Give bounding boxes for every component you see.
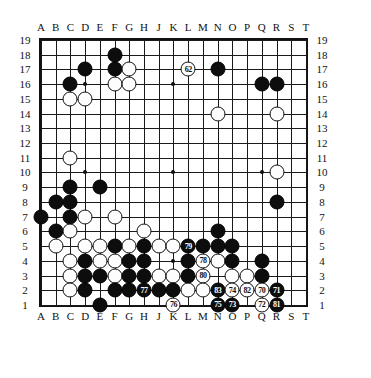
stone[interactable]	[63, 150, 78, 165]
stone-numbered[interactable]: 71	[269, 283, 284, 298]
stone[interactable]	[166, 283, 181, 298]
stone[interactable]	[63, 194, 78, 209]
stone[interactable]	[210, 253, 225, 268]
stone[interactable]	[107, 62, 122, 77]
column-label-bottom: J	[152, 311, 166, 322]
stone[interactable]	[63, 180, 78, 195]
stone[interactable]	[269, 77, 284, 92]
stone[interactable]	[137, 224, 152, 239]
stone[interactable]	[107, 77, 122, 92]
column-label-bottom: P	[240, 311, 254, 322]
column-label-top: B	[49, 22, 63, 33]
row-label-left: 1	[17, 300, 33, 311]
stone-numbered[interactable]: 62	[181, 62, 196, 77]
stone[interactable]	[107, 47, 122, 62]
row-label-right: 11	[314, 153, 330, 164]
stone[interactable]	[63, 209, 78, 224]
stone-numbered[interactable]: 74	[225, 283, 240, 298]
stone[interactable]	[107, 268, 122, 283]
stone[interactable]	[78, 283, 93, 298]
stone[interactable]	[137, 253, 152, 268]
stone-move-number: 81	[270, 298, 283, 311]
stone[interactable]	[107, 239, 122, 254]
stone[interactable]	[210, 224, 225, 239]
stone[interactable]	[63, 224, 78, 239]
stone[interactable]	[269, 165, 284, 180]
stone-numbered[interactable]: 72	[254, 297, 269, 312]
stone[interactable]	[195, 239, 210, 254]
stone[interactable]	[92, 297, 107, 312]
stone[interactable]	[254, 77, 269, 92]
stone-numbered[interactable]: 70	[254, 283, 269, 298]
stone[interactable]	[210, 62, 225, 77]
stone-numbered[interactable]: 82	[240, 283, 255, 298]
stone-numbered[interactable]: 79	[181, 239, 196, 254]
stone[interactable]	[48, 239, 63, 254]
stone[interactable]	[48, 194, 63, 209]
stone[interactable]	[63, 91, 78, 106]
stone[interactable]	[122, 239, 137, 254]
row-label-left: 7	[17, 212, 33, 223]
stone[interactable]	[151, 268, 166, 283]
stone[interactable]	[210, 239, 225, 254]
go-board[interactable]: AABBCCDDEEFFGGHHJJKKLLMMNNOOPPQQRRSSTT19…	[0, 0, 371, 378]
stone[interactable]	[63, 77, 78, 92]
stone[interactable]	[181, 253, 196, 268]
stone[interactable]	[107, 209, 122, 224]
column-label-top: J	[152, 22, 166, 33]
stone[interactable]	[78, 62, 93, 77]
stone[interactable]	[78, 239, 93, 254]
stone[interactable]	[107, 253, 122, 268]
stone[interactable]	[269, 194, 284, 209]
stone[interactable]	[225, 253, 240, 268]
stone[interactable]	[137, 239, 152, 254]
row-label-right: 18	[314, 50, 330, 61]
stone[interactable]	[92, 268, 107, 283]
stone[interactable]	[122, 77, 137, 92]
stone[interactable]	[78, 209, 93, 224]
stone[interactable]	[48, 224, 63, 239]
stone[interactable]	[122, 253, 137, 268]
stone[interactable]	[181, 283, 196, 298]
grid-line-horizontal	[41, 202, 306, 203]
stone[interactable]	[195, 283, 210, 298]
stone[interactable]	[122, 268, 137, 283]
stone-numbered[interactable]: 76	[166, 297, 181, 312]
stone-numbered[interactable]: 78	[195, 253, 210, 268]
stone[interactable]	[78, 253, 93, 268]
stone[interactable]	[107, 283, 122, 298]
stone[interactable]	[151, 283, 166, 298]
stone-numbered[interactable]: 77	[137, 283, 152, 298]
stone[interactable]	[210, 106, 225, 121]
stone-numbered[interactable]: 83	[210, 283, 225, 298]
stone[interactable]	[254, 253, 269, 268]
stone[interactable]	[92, 180, 107, 195]
column-label-top: D	[78, 22, 92, 33]
stone[interactable]	[63, 268, 78, 283]
hoshi-point	[83, 82, 87, 86]
column-label-top: N	[211, 22, 225, 33]
stone[interactable]	[122, 283, 137, 298]
stone[interactable]	[78, 91, 93, 106]
stone[interactable]	[137, 268, 152, 283]
stone[interactable]	[240, 268, 255, 283]
stone[interactable]	[166, 239, 181, 254]
stone[interactable]	[166, 268, 181, 283]
stone-numbered[interactable]: 75	[210, 297, 225, 312]
stone[interactable]	[63, 283, 78, 298]
stone[interactable]	[92, 239, 107, 254]
stone-numbered[interactable]: 73	[225, 297, 240, 312]
stone[interactable]	[92, 253, 107, 268]
stone-numbered[interactable]: 81	[269, 297, 284, 312]
stone[interactable]	[34, 209, 49, 224]
stone[interactable]	[269, 106, 284, 121]
stone[interactable]	[63, 253, 78, 268]
stone[interactable]	[254, 268, 269, 283]
stone[interactable]	[225, 268, 240, 283]
stone[interactable]	[78, 268, 93, 283]
stone[interactable]	[122, 62, 137, 77]
stone-numbered[interactable]: 80	[195, 268, 210, 283]
stone[interactable]	[151, 239, 166, 254]
stone[interactable]	[225, 239, 240, 254]
stone[interactable]	[181, 268, 196, 283]
